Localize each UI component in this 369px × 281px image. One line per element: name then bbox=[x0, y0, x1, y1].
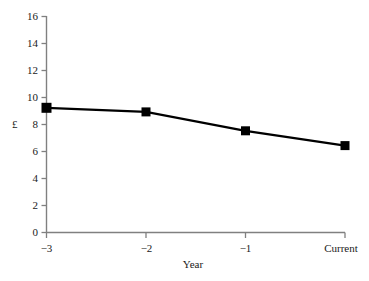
y-tick-label-4: 4 bbox=[18, 173, 38, 184]
x-tick-label-current: Current bbox=[313, 243, 369, 254]
chart-canvas bbox=[0, 0, 369, 281]
x-tick-marks bbox=[47, 233, 346, 239]
x-tick-label-minus3: −3 bbox=[26, 243, 67, 254]
y-tick-label-16: 16 bbox=[18, 11, 38, 22]
y-tick-label-14: 14 bbox=[18, 38, 38, 49]
data-line bbox=[47, 108, 346, 146]
y-tick-label-2: 2 bbox=[18, 200, 38, 211]
axes-group bbox=[46, 16, 345, 233]
data-point-marker bbox=[42, 103, 52, 113]
y-tick-label-0: 0 bbox=[18, 227, 38, 238]
x-tick-label-minus2: −2 bbox=[126, 243, 167, 254]
data-series-group bbox=[42, 103, 350, 150]
y-tick-label-12: 12 bbox=[18, 65, 38, 76]
y-tick-marks bbox=[42, 17, 47, 233]
y-tick-label-6: 6 bbox=[18, 146, 38, 157]
y-axis-title: £ bbox=[12, 119, 18, 130]
data-point-marker bbox=[241, 126, 250, 135]
x-tick-label-minus1: −1 bbox=[225, 243, 266, 254]
data-point-marker bbox=[341, 141, 350, 150]
x-axis-title: Year bbox=[168, 259, 218, 270]
y-tick-label-8: 8 bbox=[18, 119, 38, 130]
data-point-marker bbox=[142, 107, 151, 116]
line-chart: 16 14 12 10 8 6 4 2 0 £ −3 −2 −1 Current… bbox=[0, 0, 369, 281]
y-tick-label-10: 10 bbox=[18, 92, 38, 103]
